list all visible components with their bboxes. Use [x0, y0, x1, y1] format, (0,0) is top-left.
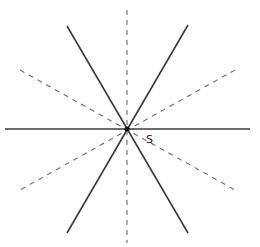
star-lines-diagram: S — [0, 0, 260, 247]
center-label: S — [146, 133, 153, 146]
dashed-lines — [20, 10, 235, 243]
center-point — [125, 127, 130, 132]
